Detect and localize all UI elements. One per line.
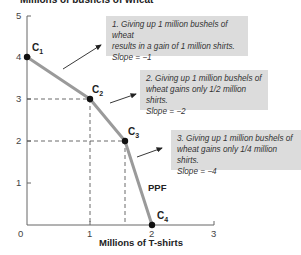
label-c1: C1 (32, 42, 43, 55)
note-1-line-3: Slope = −1 (112, 52, 242, 63)
ppf-label: PPF (148, 182, 166, 193)
y-tick-5: 5 (16, 10, 21, 21)
note-1-line-1: 1. Giving up 1 million bushels of wheat (112, 19, 242, 41)
guide-lines (27, 99, 125, 225)
label-c3: C3 (128, 126, 139, 139)
y-tick-1: 1 (16, 177, 21, 188)
y-tick-2: 2 (16, 135, 21, 146)
origin-label: 0 (18, 228, 23, 239)
label-c2: C2 (92, 84, 103, 97)
y-tick-4: 4 (16, 51, 21, 62)
arrow-note-1 (63, 45, 101, 69)
note-2-line-3: Slope = −2 (146, 106, 262, 117)
annotation-box-1: 1. Giving up 1 million bushels of wheat … (106, 16, 248, 56)
note-2-line-1: 2. Giving up 1 million bushels of (146, 73, 262, 84)
x-axis-label: Millions of T-shirts (99, 237, 183, 248)
note-1-line-2: results in a gain of 1 million shirts. (112, 41, 242, 52)
note-2-line-2: wheat gains only 1/2 million shirts. (146, 84, 262, 106)
arrow-note-2 (110, 94, 136, 103)
point-c1 (24, 54, 30, 60)
ppf-curve (27, 57, 152, 225)
annotation-box-3: 3. Giving up 1 million bushels of wheat … (171, 130, 301, 170)
note-3-line-3: Slope = −4 (177, 166, 295, 177)
arrow-note-3 (137, 148, 162, 157)
note-3-line-2: wheat gains only 1/4 million shirts. (177, 144, 295, 166)
x-tick-3: 3 (211, 228, 216, 239)
note-3-line-1: 3. Giving up 1 million bushels of (177, 133, 295, 144)
y-tick-3: 3 (16, 93, 21, 104)
annotation-box-2: 2. Giving up 1 million bushels of wheat … (140, 70, 268, 110)
label-c4: C4 (157, 210, 168, 223)
x-tick-1: 1 (87, 228, 92, 239)
